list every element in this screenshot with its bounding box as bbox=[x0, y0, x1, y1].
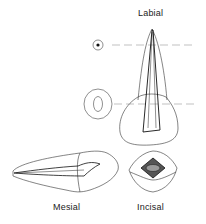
cervical-cross-section bbox=[84, 89, 112, 119]
incisal-view-tooth bbox=[129, 151, 177, 192]
apical-cross-section bbox=[93, 40, 103, 50]
tooth-diagram bbox=[0, 0, 206, 224]
mesial-view-tooth bbox=[13, 151, 118, 192]
reference-lines bbox=[112, 45, 196, 104]
labial-view-tooth bbox=[120, 29, 178, 145]
